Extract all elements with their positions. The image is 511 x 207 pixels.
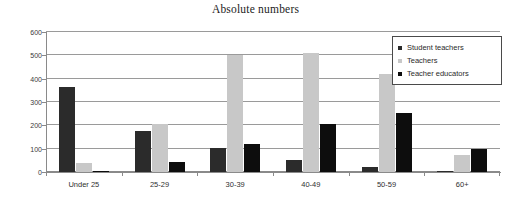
bar [169, 162, 185, 172]
x-tick-label: 25-29 [150, 181, 169, 189]
bar [396, 113, 412, 172]
y-tick-label-200: 200 [8, 122, 42, 129]
y-tick-label-400: 400 [8, 75, 42, 82]
chart-legend: Student teachersTeachersTeacher educator… [392, 36, 502, 85]
chart-title: Absolute numbers [0, 3, 511, 15]
x-tick-mark [273, 172, 274, 176]
legend-label: Student teachers [407, 44, 464, 52]
bar [379, 74, 395, 172]
bar [135, 131, 151, 172]
bar-group [59, 32, 109, 172]
legend-item[interactable]: Teacher educators [398, 67, 496, 80]
y-tick-label-600: 600 [8, 29, 42, 36]
bar [210, 148, 226, 172]
bar [244, 144, 260, 172]
x-tick-mark [122, 172, 123, 176]
y-tick-label-100: 100 [8, 145, 42, 152]
bar [76, 163, 92, 172]
x-tick-mark [349, 172, 350, 176]
legend-swatch-icon [398, 59, 402, 63]
x-axis-ticks [46, 172, 500, 178]
bar [59, 87, 75, 172]
bar [320, 124, 336, 172]
x-tick-label: Under 25 [68, 181, 99, 189]
x-tick-label: 60+ [456, 181, 469, 189]
bar [471, 149, 487, 172]
legend-item[interactable]: Teachers [398, 54, 496, 67]
x-tick-mark [197, 172, 198, 176]
legend-item[interactable]: Student teachers [398, 41, 496, 54]
legend-swatch-icon [398, 46, 402, 50]
bar [454, 155, 470, 173]
bar-group [135, 32, 185, 172]
legend-label: Teacher educators [407, 70, 469, 78]
bar-chart: Absolute numbers 0100200300400500600 Und… [0, 0, 511, 207]
y-tick-label-300: 300 [8, 99, 42, 106]
x-tick-mark [46, 172, 47, 176]
legend-swatch-icon [398, 72, 402, 76]
bar [286, 160, 302, 172]
x-tick-label: 40-49 [301, 181, 320, 189]
y-tick-label-0: 0 [8, 169, 42, 176]
bar [152, 124, 168, 172]
bar [303, 53, 319, 172]
x-axis-labels: Under 2525-2930-3940-4950-5960+ [46, 181, 500, 195]
bar [227, 55, 243, 172]
y-axis-ticks: 0100200300400500600 [0, 32, 42, 173]
x-tick-label: 30-39 [226, 181, 245, 189]
x-tick-mark [499, 172, 500, 176]
x-tick-label: 50-59 [377, 181, 396, 189]
bar-group [210, 32, 260, 172]
y-tick-label-500: 500 [8, 52, 42, 59]
x-tick-mark [424, 172, 425, 176]
bar-group [286, 32, 336, 172]
legend-label: Teachers [407, 57, 437, 65]
